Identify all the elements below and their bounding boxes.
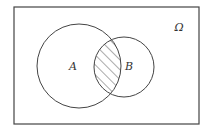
set-b-label: B	[125, 61, 133, 72]
venn-diagram: Ω A B	[0, 0, 208, 132]
universe-label: Ω	[174, 22, 183, 33]
set-a-label: A	[69, 61, 77, 72]
